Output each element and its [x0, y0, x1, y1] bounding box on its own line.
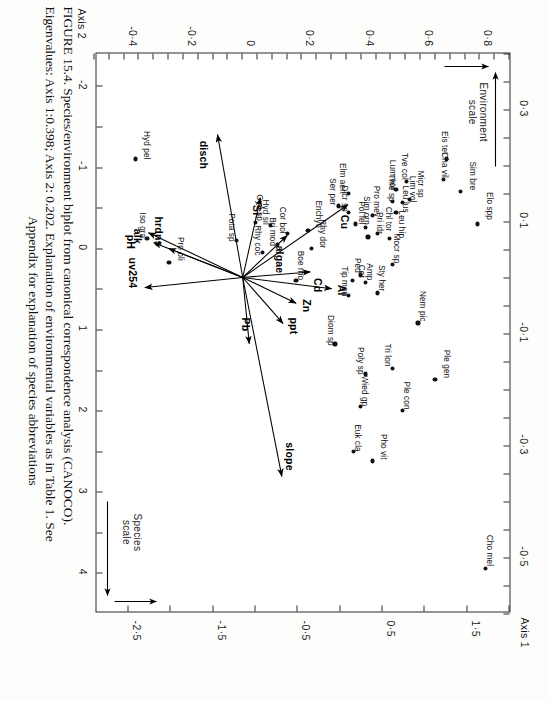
environment-scale-line1: Environment — [477, 82, 488, 141]
axis-tick — [108, 53, 109, 59]
axis-tick — [434, 53, 435, 59]
axis-tick — [389, 53, 390, 59]
x-tick-label: 1 — [76, 325, 88, 331]
species-point — [432, 377, 436, 381]
species-point — [166, 260, 170, 264]
species-label: Cor bol — [277, 206, 286, 233]
species-point — [483, 566, 487, 570]
species-point — [458, 189, 462, 193]
environment-vector-ppt — [242, 277, 282, 323]
axis-tick — [96, 370, 102, 371]
axis-tick — [423, 605, 424, 611]
axis-tick — [503, 613, 509, 614]
axis-tick — [503, 277, 509, 278]
species-point — [309, 246, 313, 250]
axis-tick — [503, 305, 509, 306]
environment-scale-label: Environment scale — [466, 82, 488, 141]
axis-tick — [226, 53, 227, 59]
axis-tick — [296, 605, 297, 611]
axis-tick — [466, 605, 467, 611]
species-label: Sty her — [376, 264, 385, 291]
species-label: Mocr sp — [391, 233, 400, 263]
species-label: Rhy coc — [252, 225, 261, 255]
axis-tick — [241, 53, 242, 59]
axis-tick — [96, 410, 102, 411]
x-tick-label: -2 — [76, 79, 88, 89]
y-species-tick-label: -0·5 — [299, 620, 311, 640]
axis-tick — [315, 53, 316, 59]
x-env-tick-label: -0·5 — [517, 546, 529, 566]
x-env-tick-label: 0·3 — [517, 100, 529, 116]
x-env-tick-label: 0·1 — [517, 212, 529, 228]
environment-label: hrdns — [152, 216, 164, 246]
axis-tick — [182, 53, 183, 59]
species-label: Cer — [356, 264, 365, 278]
y-env-tick-label: 0·2 — [304, 16, 316, 46]
environment-label: algae — [273, 245, 285, 273]
environment-label: Si — [250, 204, 262, 214]
y-species-tick-label: -1·5 — [215, 620, 227, 640]
axis-tick — [256, 53, 257, 59]
y-species-tick-label: 0·5 — [384, 620, 396, 636]
caption-line-1: FIGURE 15.4. Species/environment biplot … — [59, 6, 77, 695]
species-label: Boe rho — [295, 250, 304, 279]
axis-tick — [212, 53, 213, 59]
y-env-tick-label: -0·4 — [126, 16, 138, 46]
axis-tick — [96, 288, 102, 289]
species-point — [346, 191, 350, 195]
species-scale-line1: Species — [131, 513, 142, 551]
species-label: Pota sp — [226, 213, 235, 241]
species-label: Diom sp — [325, 315, 334, 346]
axis-tick — [503, 501, 509, 502]
axis-tick — [96, 207, 102, 208]
environment-label: slope — [283, 442, 295, 470]
species-point — [370, 458, 374, 462]
species-label: Hyd pel — [141, 131, 150, 159]
species-label: Ser per — [327, 178, 336, 206]
axis-tick — [169, 605, 170, 611]
environment-scale-line2: scale — [466, 99, 477, 124]
axis-tick — [167, 53, 168, 59]
species-point — [475, 221, 479, 225]
axis-tick — [93, 53, 94, 59]
axis-tick — [286, 53, 287, 59]
species-label: Elo spp — [484, 191, 493, 219]
species-label: Tri lon — [382, 343, 391, 366]
environment-vector-disch — [217, 134, 242, 277]
environment-scale-legend: Environment scale — [440, 58, 504, 178]
axis-tick — [503, 417, 509, 418]
species-point — [365, 234, 369, 238]
axis-tick — [330, 53, 331, 59]
species-point — [305, 228, 309, 232]
axis-tick — [375, 53, 376, 59]
species-point — [363, 225, 367, 229]
environment-label: Pb — [239, 317, 251, 331]
species-label: Wied gp — [359, 375, 368, 406]
axis-tick — [96, 167, 102, 168]
caption-line-2: Eigenvalues: Axis 1:0.398; Axis 2: 0.202… — [41, 6, 59, 695]
species-label: Ple con — [401, 381, 410, 409]
rotated-figure-container: Cho melElo sppSim breEis tetCha vilPle g… — [0, 0, 548, 701]
species-label: Chl tor — [383, 206, 392, 231]
axis-tick — [503, 361, 509, 362]
axis-tick — [503, 333, 509, 334]
y-axis-title: Axis 2 — [75, 8, 87, 38]
environment-vector-slope — [242, 277, 281, 476]
axis-tick — [152, 53, 153, 59]
axis-tick — [503, 221, 509, 222]
environment-vector-Pb — [242, 277, 249, 343]
species-scale-legend: Species scale — [98, 487, 160, 609]
species-point — [133, 156, 137, 160]
y-species-tick-label: 1·5 — [469, 620, 481, 636]
species-label: Enchytl — [313, 200, 322, 228]
axis-tick — [96, 451, 102, 452]
environment-vector-uv254 — [144, 277, 242, 287]
axis-tick — [404, 53, 405, 59]
species-point — [387, 236, 391, 240]
species-point — [350, 278, 354, 282]
y-env-tick-label: 0·6 — [422, 16, 434, 46]
caption-line-3: Appendix for explanation of species abbr… — [24, 6, 42, 695]
species-scale-label: Species scale — [120, 513, 142, 551]
axis-tick — [503, 193, 509, 194]
species-label: Leu lus — [400, 185, 409, 212]
